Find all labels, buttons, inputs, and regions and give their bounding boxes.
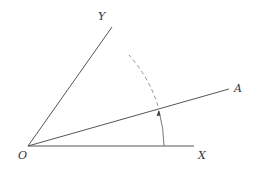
diagram-svg (0, 0, 260, 175)
angle-diagram: O X Y A (0, 0, 260, 175)
ray-oa (28, 89, 229, 146)
label-x: X (198, 150, 206, 161)
arc-solid (159, 111, 164, 146)
arc-dashed (129, 55, 158, 106)
label-y: Y (98, 11, 105, 22)
ray-oy (28, 27, 112, 146)
label-a: A (234, 83, 242, 94)
label-o: O (18, 150, 27, 161)
